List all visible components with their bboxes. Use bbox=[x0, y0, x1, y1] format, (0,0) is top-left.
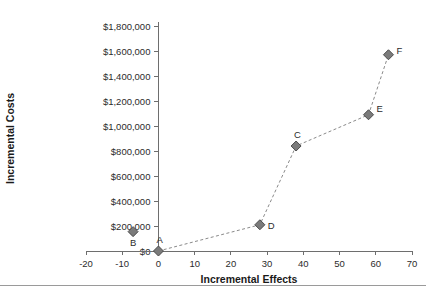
chart-container: $0$200,000$400,000$600,000$800,000$1,000… bbox=[0, 0, 426, 293]
data-point-marker-f bbox=[383, 50, 393, 60]
y-tick-label: $1,200,000 bbox=[103, 96, 151, 107]
y-axis-title: Incremental Costs bbox=[4, 93, 16, 184]
y-axis-tick-labels: $0$200,000$400,000$600,000$800,000$1,000… bbox=[103, 21, 151, 257]
y-tick-label: $1,000,000 bbox=[103, 121, 151, 132]
x-axis-title: Incremental Effects bbox=[201, 273, 298, 285]
y-tick-label: $400,000 bbox=[111, 196, 151, 207]
data-point-label-c: C bbox=[294, 129, 301, 140]
x-tick-label: 40 bbox=[298, 258, 309, 269]
x-tick-label: 20 bbox=[226, 258, 237, 269]
y-tick-label: $1,400,000 bbox=[103, 71, 151, 82]
x-tick-label: -10 bbox=[115, 258, 129, 269]
y-axis-tick-marks bbox=[154, 26, 158, 251]
y-tick-label: $1,600,000 bbox=[103, 46, 151, 57]
y-tick-label: $600,000 bbox=[111, 171, 151, 182]
data-point-label-e: E bbox=[377, 103, 383, 114]
data-point-marker-d bbox=[255, 220, 265, 230]
x-tick-label: 50 bbox=[334, 258, 345, 269]
data-point-marker-a bbox=[153, 246, 163, 256]
data-point-label-f: F bbox=[396, 45, 402, 56]
data-point-label-a: A bbox=[156, 234, 163, 245]
data-point-labels: ABCDEF bbox=[130, 45, 402, 248]
data-point-marker-e bbox=[364, 110, 374, 120]
data-point-markers bbox=[128, 50, 393, 256]
x-tick-label: 60 bbox=[370, 258, 381, 269]
incremental-cost-effectiveness-plot: $0$200,000$400,000$600,000$800,000$1,000… bbox=[0, 0, 426, 293]
x-axis-tick-labels: -20-10010203040506070 bbox=[79, 258, 417, 269]
bottom-divider bbox=[0, 285, 426, 286]
x-axis-tick-marks bbox=[86, 251, 412, 255]
data-point-marker-c bbox=[291, 141, 301, 151]
y-tick-label: $1,800,000 bbox=[103, 21, 151, 32]
x-tick-label: 70 bbox=[407, 258, 418, 269]
x-tick-label: 30 bbox=[262, 258, 273, 269]
data-point-label-b: B bbox=[130, 237, 136, 248]
x-tick-label: 10 bbox=[189, 258, 200, 269]
x-tick-label: -20 bbox=[79, 258, 93, 269]
data-point-label-d: D bbox=[268, 220, 275, 231]
y-tick-label: $800,000 bbox=[111, 146, 151, 157]
x-tick-label: 0 bbox=[156, 258, 161, 269]
